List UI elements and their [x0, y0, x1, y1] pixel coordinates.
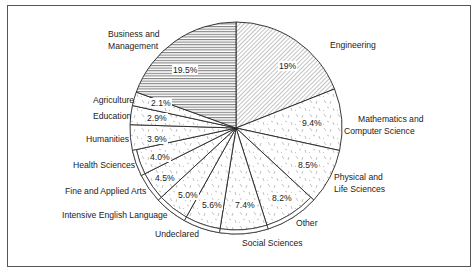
label-phys-line2: Life Sciences — [334, 184, 385, 195]
label-agriculture: Agriculture — [93, 95, 134, 106]
label-humanities: Humanities — [86, 134, 129, 145]
pie-chart — [0, 0, 475, 278]
pct-social: 7.4% — [234, 200, 256, 210]
pct-engineering: 19% — [278, 61, 297, 71]
label-social-sciences: Social Sciences — [242, 238, 303, 249]
pct-business: 19.5% — [172, 65, 198, 75]
label-fine-arts: Fine and Applied Arts — [65, 186, 146, 197]
pct-phys: 8.5% — [297, 160, 319, 170]
label-intensive-english: Intensive English Language — [62, 210, 168, 221]
pct-arts: 4.5% — [154, 173, 176, 183]
pct-undeclared: 5.6% — [201, 200, 223, 210]
pct-education: 2.9% — [146, 113, 168, 123]
label-engineering: Engineering — [330, 40, 376, 51]
pct-humanities: 3.9% — [146, 134, 168, 144]
pct-other: 8.2% — [271, 193, 293, 203]
label-education: Education — [93, 111, 131, 122]
label-math-line1: Mathematics and — [358, 114, 423, 125]
pct-math: 9.4% — [301, 118, 323, 128]
label-other: Other — [296, 218, 318, 229]
label-business-line1: Business and — [108, 29, 160, 40]
pct-english: 5.0% — [177, 190, 199, 200]
pct-health: 4.0% — [149, 152, 171, 162]
pct-agriculture: 2.1% — [150, 98, 172, 108]
label-undeclared: Undeclared — [155, 229, 199, 240]
label-business-line2: Management — [108, 41, 158, 52]
label-phys-line1: Physical and — [334, 172, 383, 183]
label-health-sciences: Health Sciences — [73, 160, 135, 171]
label-math-line2: Computer Science — [344, 126, 415, 137]
